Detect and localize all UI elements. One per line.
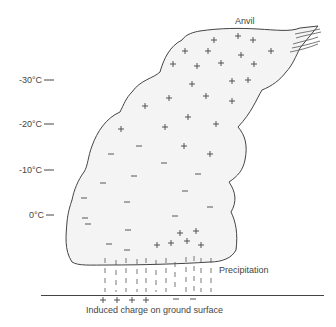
ground-charge-caption: Induced charge on ground surface	[86, 305, 223, 315]
anvil-label: Anvil	[235, 16, 255, 26]
temp-label-minus-20: -20°C	[0, 119, 42, 129]
temperature-ticks	[44, 80, 54, 215]
cloud-outline	[66, 26, 318, 265]
temp-label-minus-30: -30°C	[0, 75, 42, 85]
temp-label-0: 0°C	[0, 210, 44, 220]
thunderstorm-diagram	[0, 0, 336, 327]
ground-charges	[100, 297, 196, 303]
temp-label-minus-10: -10°C	[0, 165, 42, 175]
precipitation-label: Precipitation	[219, 265, 269, 275]
